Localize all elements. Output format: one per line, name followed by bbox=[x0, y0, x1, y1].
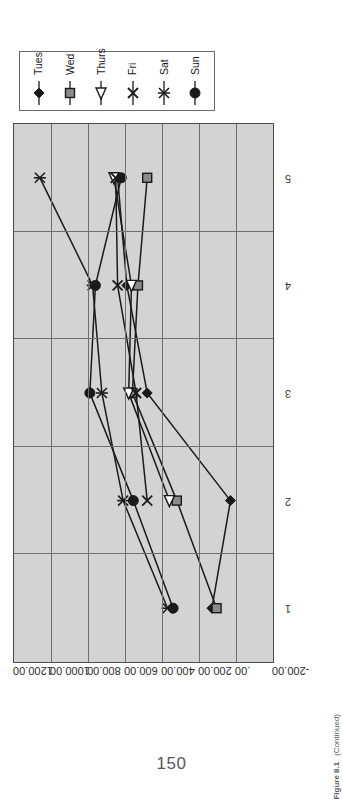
category-axis-tick-label: 2 bbox=[284, 496, 290, 508]
legend-item-fri[interactable]: Fri bbox=[119, 56, 146, 106]
square-marker-icon bbox=[61, 80, 77, 106]
legend-item-label: Sat bbox=[158, 59, 169, 75]
legend-item-label: Wed bbox=[64, 54, 75, 75]
circle-marker-icon bbox=[187, 80, 203, 106]
value-axis-tick-label: 800.00 bbox=[87, 665, 121, 677]
data-point-marker bbox=[142, 173, 151, 182]
data-point-marker bbox=[212, 604, 221, 613]
legend-item-label: Thurs bbox=[96, 48, 107, 75]
chart-plot-area-wrapper: 1200.001000.00800.00600.00400.00200.00.0… bbox=[13, 123, 300, 733]
value-gridline bbox=[199, 124, 200, 662]
legend-item-tues[interactable]: Tues bbox=[25, 56, 52, 106]
value-axis-tick-label: 1000.00 bbox=[50, 665, 90, 677]
value-axis-tick-label: -200.00 bbox=[272, 665, 309, 677]
legend-item-sat[interactable]: Sat bbox=[150, 56, 177, 106]
figure-caption: Figure 8.1(Continued) bbox=[332, 714, 341, 800]
data-point-marker bbox=[168, 603, 178, 613]
legend-item-thurs[interactable]: Thurs bbox=[87, 56, 114, 106]
value-gridline bbox=[236, 124, 237, 662]
category-axis-tick-label: 5 bbox=[284, 173, 290, 185]
value-axis-tick-label: 200.00 bbox=[198, 665, 232, 677]
data-point-marker bbox=[33, 173, 45, 183]
value-axis-tick-label: 400.00 bbox=[161, 665, 195, 677]
value-gridline bbox=[51, 124, 52, 662]
category-axis-tick-label: 4 bbox=[284, 280, 290, 292]
diamond-marker-icon bbox=[30, 80, 46, 106]
page-number: 150 bbox=[0, 754, 343, 774]
figure-continued-note: (Continued) bbox=[332, 714, 341, 756]
chart-legend: TuesWedThursFriSatSun bbox=[19, 51, 215, 111]
category-axis-tick-label: 3 bbox=[284, 388, 290, 400]
value-gridline bbox=[162, 124, 163, 662]
legend-item-wed[interactable]: Wed bbox=[56, 56, 83, 106]
value-axis-tick-label: 600.00 bbox=[124, 665, 158, 677]
value-axis-tick-label: .00 bbox=[235, 665, 250, 677]
legend-item-label: Sun bbox=[190, 56, 201, 75]
category-gridline bbox=[14, 446, 273, 447]
legend-item-label: Tues bbox=[33, 52, 44, 75]
asterisk-marker-icon bbox=[156, 80, 172, 106]
chart-plot-area bbox=[13, 123, 274, 663]
triangle-marker-icon bbox=[93, 80, 109, 106]
cross-marker-icon bbox=[124, 80, 140, 106]
value-gridline bbox=[125, 124, 126, 662]
category-gridline bbox=[14, 338, 273, 339]
data-point-marker bbox=[90, 280, 100, 290]
series-wed bbox=[127, 173, 220, 612]
legend-item-sun[interactable]: Sun bbox=[181, 56, 208, 106]
series-thurs bbox=[108, 173, 173, 507]
data-point-marker bbox=[128, 496, 138, 506]
value-axis-tick-label: 1200.00 bbox=[13, 665, 53, 677]
legend-item-label: Fri bbox=[127, 63, 138, 75]
rotated-figure: 1200.001000.00800.00600.00400.00200.00.0… bbox=[13, 33, 313, 733]
figure-label: Figure 8.1 bbox=[332, 762, 341, 800]
data-point-marker bbox=[84, 388, 94, 398]
data-point-marker bbox=[225, 496, 235, 506]
category-gridline bbox=[14, 231, 273, 232]
category-gridline bbox=[14, 553, 273, 554]
category-axis-tick-label: 1 bbox=[284, 603, 290, 615]
value-gridline bbox=[88, 124, 89, 662]
